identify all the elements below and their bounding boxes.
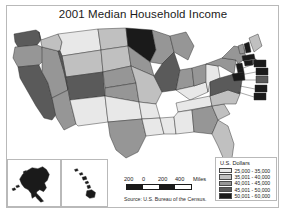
inset-hawaii: [61, 159, 108, 207]
legend-label: 35,001 - 40,000: [235, 174, 271, 180]
state-co: [66, 72, 105, 100]
scale-tick-labels: 200 0 200 400 Miles: [124, 176, 210, 182]
scale-tick: 400: [175, 176, 193, 182]
state-me: [249, 34, 262, 52]
scale-segment: [127, 185, 143, 189]
legend-rows: 25,000 - 35,00035,001 - 40,00040,001 - 4…: [219, 168, 273, 200]
state-al: [174, 110, 194, 134]
scale-units-label: Miles: [193, 176, 206, 182]
state-fl: [212, 120, 234, 160]
legend-swatch: [219, 187, 232, 192]
legend-row: 45,001 - 50,000: [219, 187, 273, 193]
legend-label: 40,001 - 45,000: [235, 180, 271, 186]
scale-bar-graphic: [126, 184, 192, 190]
state-nm: [70, 96, 108, 126]
alaska-shape: [12, 167, 49, 202]
state-nh: [244, 42, 251, 53]
callout-ri: [256, 76, 268, 83]
legend-swatch: [219, 174, 232, 179]
legend-swatch: [219, 193, 232, 198]
legend-title: U.S. Dollars: [220, 160, 273, 166]
legend-swatch: [219, 181, 232, 186]
states-svg: [6, 20, 279, 165]
callout-nj: [254, 93, 266, 100]
state-ar: [139, 102, 160, 119]
alaska-svg: [8, 160, 60, 206]
hawaii-shape: [74, 169, 95, 199]
map-figure: 2001 Median Household Income: [0, 0, 286, 215]
callout-ct: [255, 85, 267, 92]
scale-tick: 200: [124, 176, 142, 182]
legend-row: 50,001 - 60,000: [219, 193, 273, 199]
inset-alaska: [7, 159, 61, 207]
legend-row: 40,001 - 45,000: [219, 180, 273, 186]
legend-swatch: [219, 168, 232, 173]
legend-row: 35,001 - 40,000: [219, 174, 273, 180]
legend-label: 45,001 - 50,000: [235, 187, 271, 193]
legend-label: 50,001 - 60,000: [235, 193, 271, 199]
scale-segment: [159, 185, 175, 189]
legend: U.S. Dollars 25,000 - 35,00035,001 - 40,…: [215, 157, 277, 201]
scale-segment: [175, 185, 191, 189]
source-attribution: Source: U.S. Bureau of the Census.: [124, 196, 206, 202]
hawaii-svg: [62, 160, 107, 206]
state-wa: [14, 30, 41, 47]
legend-label: 25,000 - 35,000: [235, 168, 271, 174]
scale-segment: [143, 185, 159, 189]
scale-bar: 200 0 200 400 Miles: [124, 176, 210, 192]
callout-nh: [254, 60, 266, 67]
scale-tick: 0: [142, 176, 158, 182]
choropleth-map: [6, 20, 279, 165]
legend-row: 25,000 - 35,000: [219, 168, 273, 174]
state-ct: [244, 60, 253, 66]
scale-tick: 200: [158, 176, 175, 182]
state-tx: [108, 119, 146, 158]
state-or: [13, 45, 44, 67]
callout-ma: [256, 68, 268, 75]
page-title: 2001 Median Household Income: [0, 8, 286, 20]
